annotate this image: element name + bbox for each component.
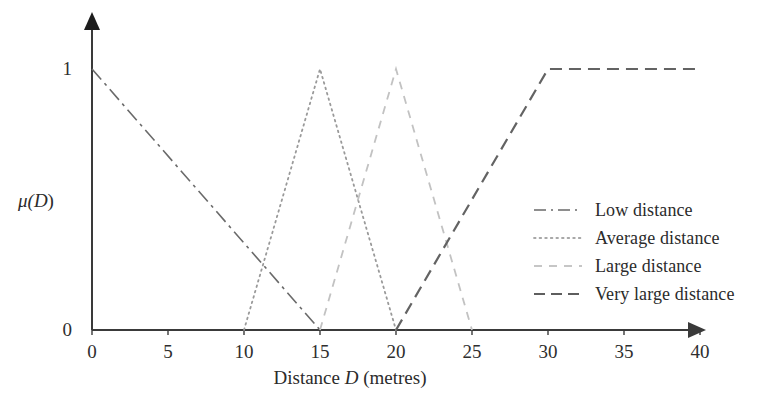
legend-swatch-dotted-light [533,231,583,245]
legend-swatch-dashed-dark [533,287,583,301]
series-large-distance [320,69,472,330]
legend-label-very-large-distance: Very large distance [595,284,735,305]
x-axis-title-prefix: Distance [273,367,344,388]
legend-item-low-distance: Low distance [533,196,769,224]
series-average-distance [244,69,396,330]
series-low-distance [92,69,320,330]
x-axis-title: Distance D (metres) [0,367,700,389]
y-tick-label-0: 0 [42,319,72,341]
legend-item-average-distance: Average distance [533,224,769,252]
legend-item-very-large-distance: Very large distance [533,280,769,308]
legend-label-average-distance: Average distance [595,228,720,249]
legend-item-large-distance: Large distance [533,252,769,280]
x-tick-label-0: 0 [72,341,112,363]
x-tick-label-30: 30 [528,341,568,363]
x-tick-label-5: 5 [148,341,188,363]
legend-label-large-distance: Large distance [595,256,702,277]
x-axis-title-suffix: (metres) [358,367,426,388]
y-axis-title-mu: μ( [18,190,34,211]
x-tick-label-10: 10 [224,341,264,363]
legend-swatch-dashed-lighter [533,259,583,273]
y-axis-title: μ(D) [18,190,54,212]
x-tick-label-25: 25 [452,341,492,363]
y-axis-title-suffix: ) [48,190,54,211]
x-axis-title-variable: D [345,367,359,388]
x-tick-label-35: 35 [604,341,644,363]
legend-label-low-distance: Low distance [595,200,693,221]
y-axis-title-variable: D [34,190,48,211]
y-tick-label-1: 1 [42,58,72,80]
x-tick-label-40: 40 [680,341,720,363]
chart-page: 1 0 0 5 10 15 20 25 30 35 40 Distance D … [0,0,773,411]
x-tick-label-20: 20 [376,341,416,363]
x-tick-label-15: 15 [300,341,340,363]
legend-swatch-dashdot-dark [533,203,583,217]
chart-legend: Low distance Average distance Large dist… [533,196,769,308]
